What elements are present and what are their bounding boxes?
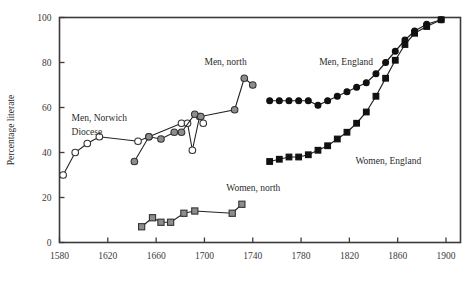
- data-point: [192, 208, 198, 214]
- data-point: [249, 82, 256, 89]
- data-point: [267, 98, 273, 104]
- y-axis-title: Percentage literate: [6, 95, 16, 165]
- data-point: [363, 109, 369, 115]
- annotation-women-north: Women, north: [226, 183, 280, 193]
- data-point: [354, 120, 360, 126]
- data-point: [325, 143, 331, 149]
- data-point: [402, 42, 408, 48]
- annotation-men-england: Men, England: [319, 57, 373, 67]
- annotation-men-norwich2: Diocese: [72, 127, 103, 137]
- data-point: [146, 133, 153, 140]
- data-point: [306, 152, 312, 158]
- data-point: [344, 129, 350, 135]
- annotation-men-north: Men, north: [204, 57, 246, 67]
- data-point: [354, 84, 360, 90]
- x-tick-label: 1900: [437, 251, 456, 261]
- y-tick-label: 80: [42, 58, 52, 68]
- data-point: [168, 219, 174, 225]
- data-point: [412, 30, 418, 36]
- data-point: [198, 113, 205, 120]
- data-point: [315, 147, 321, 153]
- data-point: [231, 106, 238, 113]
- annotation-women-england: Women, England: [355, 156, 421, 166]
- data-point: [60, 172, 67, 179]
- data-point: [325, 98, 331, 104]
- data-point: [149, 215, 155, 221]
- y-tick-label: 40: [42, 148, 52, 158]
- chart-canvas: 0204060801001580162016601700174017801820…: [0, 0, 470, 298]
- data-point: [334, 93, 340, 99]
- data-point: [267, 159, 273, 165]
- data-point: [158, 219, 164, 225]
- data-point: [438, 17, 444, 23]
- data-point: [276, 98, 282, 104]
- x-tick-label: 1780: [292, 251, 311, 261]
- x-tick-label: 1660: [147, 251, 166, 261]
- data-point: [305, 98, 311, 104]
- data-point: [373, 71, 379, 77]
- data-point: [392, 57, 398, 63]
- y-tick-label: 60: [42, 103, 52, 113]
- x-tick-label: 1700: [195, 251, 214, 261]
- x-tick-label: 1820: [340, 251, 359, 261]
- data-point: [424, 24, 430, 30]
- data-point: [383, 60, 389, 66]
- data-point: [335, 136, 341, 142]
- data-point: [72, 149, 79, 156]
- data-point: [315, 102, 321, 108]
- data-point: [363, 80, 369, 86]
- data-point: [158, 136, 165, 143]
- x-tick-label: 1580: [50, 251, 69, 261]
- x-tick-label: 1860: [388, 251, 407, 261]
- y-tick-label: 20: [42, 193, 52, 203]
- data-point: [178, 129, 185, 136]
- data-point: [229, 210, 235, 216]
- data-point: [84, 140, 91, 147]
- annotation-men-norwich: Men, Norwich: [72, 113, 128, 123]
- data-point: [392, 48, 398, 54]
- data-point: [139, 224, 145, 230]
- data-point: [171, 129, 178, 136]
- y-tick-label: 100: [37, 13, 52, 23]
- x-tick-label: 1620: [98, 251, 117, 261]
- data-point: [200, 120, 207, 127]
- data-point: [286, 98, 292, 104]
- data-point: [181, 210, 187, 216]
- data-point: [373, 93, 379, 99]
- data-point: [296, 154, 302, 160]
- data-point: [131, 158, 138, 165]
- data-point: [135, 138, 142, 145]
- data-point: [286, 154, 292, 160]
- series-line: [270, 20, 442, 162]
- y-tick-label: 0: [47, 238, 52, 248]
- data-point: [277, 156, 283, 162]
- literacy-chart: 0204060801001580162016601700174017801820…: [0, 0, 470, 298]
- data-point: [296, 98, 302, 104]
- series-women-north: [139, 201, 245, 230]
- data-point: [344, 89, 350, 95]
- data-point: [383, 75, 389, 81]
- x-tick-label: 1740: [243, 251, 262, 261]
- data-point: [239, 201, 245, 207]
- data-point: [241, 75, 248, 82]
- data-point: [189, 147, 196, 154]
- series-women-england: [267, 17, 444, 164]
